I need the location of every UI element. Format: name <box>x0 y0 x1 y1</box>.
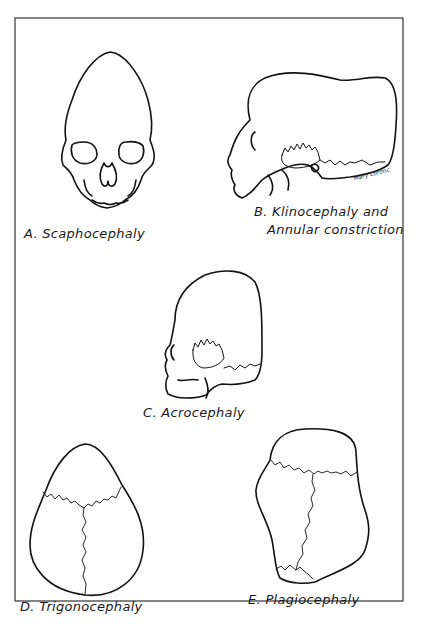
figure-illustration <box>0 0 428 641</box>
skull-acrocephaly <box>165 271 262 398</box>
label-panel-b-line2: Annular constriction <box>267 222 404 237</box>
skull-plagiocephaly <box>256 429 369 583</box>
label-panel-a: A. Scaphocephaly <box>24 226 145 241</box>
skull-trigonocephaly <box>30 444 143 595</box>
skull-scaphocephaly <box>62 52 155 208</box>
label-panel-c: C. Acrocephaly <box>143 405 245 420</box>
figure-border <box>15 18 403 601</box>
label-panel-e: E. Plagiocephaly <box>248 592 359 607</box>
label-panel-b-line1: B. Klinocephaly and <box>254 204 388 219</box>
label-panel-d: D. Trigonocephaly <box>20 599 143 614</box>
skull-klinocephaly <box>228 73 397 198</box>
